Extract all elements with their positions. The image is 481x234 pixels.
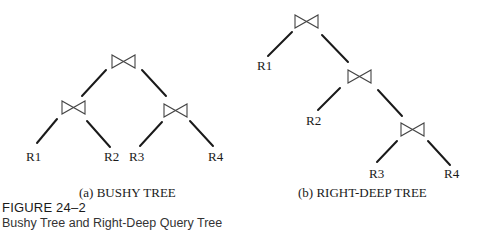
leaf-r3: R3 bbox=[369, 166, 384, 181]
leaf-r2: R2 bbox=[104, 149, 119, 164]
bushy-tree: R1 R2 R3 R4 (a) BUSHY TREE bbox=[26, 55, 224, 200]
leaf-r1: R1 bbox=[257, 58, 272, 73]
bowtie-join-icon bbox=[295, 15, 318, 28]
bowtie-join-icon bbox=[112, 55, 135, 68]
leaf-r3: R3 bbox=[129, 149, 144, 164]
edge bbox=[378, 90, 402, 116]
edge bbox=[140, 122, 162, 146]
bowtie-join-icon bbox=[348, 70, 371, 83]
edge bbox=[190, 121, 213, 146]
edge bbox=[142, 70, 166, 96]
edge bbox=[87, 121, 110, 147]
bowtie-join-icon bbox=[401, 123, 424, 136]
right-deep-tree: R1 R2 R3 R4 (b) RIGHT-DEEP TREE bbox=[257, 15, 460, 200]
edge bbox=[428, 141, 450, 165]
bowtie-join-icon bbox=[62, 101, 85, 114]
edge bbox=[377, 141, 397, 162]
edge bbox=[318, 88, 340, 110]
leaf-r4: R4 bbox=[444, 166, 460, 181]
leaf-r2: R2 bbox=[306, 113, 321, 128]
edge bbox=[37, 119, 57, 143]
bowtie-join-icon bbox=[164, 104, 187, 117]
edge bbox=[82, 70, 106, 96]
leaf-r4: R4 bbox=[208, 149, 224, 164]
query-trees-diagram: R1 R2 R3 R4 (a) BUSHY TREE R1 R2 R3 R4 (… bbox=[0, 0, 481, 234]
edge bbox=[322, 35, 348, 62]
bushy-tree-caption: (a) BUSHY TREE bbox=[79, 185, 176, 200]
right-deep-tree-caption: (b) RIGHT-DEEP TREE bbox=[298, 185, 427, 200]
edge bbox=[268, 32, 292, 56]
figure-number: FIGURE 24–2 bbox=[2, 200, 86, 215]
leaf-r1: R1 bbox=[26, 149, 41, 164]
figure-title: Bushy Tree and Right-Deep Query Tree bbox=[2, 216, 222, 230]
